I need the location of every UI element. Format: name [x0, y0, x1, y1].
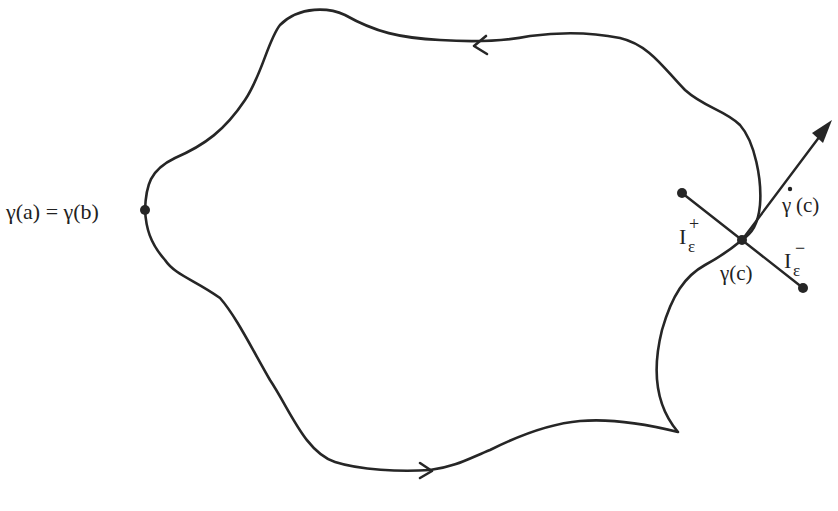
- label-I-minus-sup: −: [795, 238, 805, 258]
- tangent-vector: [742, 128, 826, 240]
- closed-curve: [145, 10, 760, 471]
- label-I-plus-sup: +: [689, 214, 699, 234]
- diagram-canvas: γ(a) = γ(b) γ(c) γ (c) I ε + I ε −: [0, 0, 838, 511]
- orientation-arrow-top-icon: [474, 36, 487, 54]
- tangent-arrowhead-icon: [812, 120, 832, 143]
- label-tangent-base: γ: [781, 193, 791, 217]
- label-I-minus-sub: ε: [793, 261, 800, 280]
- point-I-plus-end: [677, 188, 687, 198]
- label-I-plus-sub: ε: [688, 237, 695, 256]
- point-gamma-a: [140, 205, 150, 215]
- tangent-dot-icon: [788, 187, 792, 191]
- point-I-minus-end: [798, 283, 808, 293]
- label-tangent-arg: (c): [796, 193, 819, 217]
- label-I-minus: I: [784, 248, 791, 273]
- label-endpoint: γ(a) = γ(b): [5, 199, 99, 224]
- label-I-plus: I: [679, 224, 686, 249]
- point-gamma-c: [737, 235, 747, 245]
- label-gamma-c: γ(c): [719, 261, 753, 285]
